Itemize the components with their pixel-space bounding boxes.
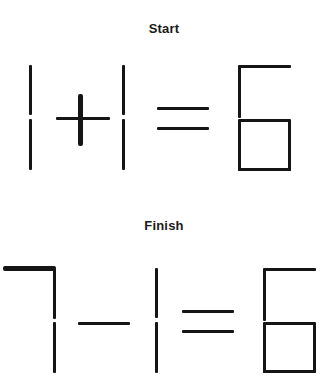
finish-equation [0, 0, 328, 381]
matchstick-vertical [122, 65, 125, 115]
start-section-label: Start [0, 22, 328, 36]
matchstick-vertical [78, 94, 83, 146]
matchstick-puzzle-canvas: Start Fi [0, 0, 328, 381]
matchstick-vertical [238, 66, 241, 118]
matchstick-horizontal [238, 65, 291, 68]
matchstick-vertical [155, 268, 158, 318]
matchstick-vertical [155, 322, 158, 373]
matchstick-vertical [122, 119, 125, 170]
matchstick-vertical [263, 269, 266, 321]
matchstick-horizontal [78, 322, 130, 325]
matchstick-horizontal [263, 370, 316, 373]
matchstick-vertical [288, 120, 291, 171]
matchstick-vertical [29, 65, 32, 115]
matchstick-horizontal [238, 168, 291, 171]
matchstick-horizontal [182, 330, 234, 333]
matchstick-vertical [263, 323, 266, 373]
matchstick-horizontal [263, 322, 316, 325]
matchstick-horizontal [182, 310, 234, 313]
matchstick-vertical [53, 322, 56, 373]
matchstick-horizontal [263, 268, 316, 271]
matchstick-horizontal [3, 266, 56, 271]
start-equation [0, 0, 328, 381]
matchstick-vertical [53, 269, 56, 319]
matchstick-vertical [238, 120, 241, 171]
matchstick-vertical [313, 323, 316, 373]
matchstick-vertical [29, 119, 32, 170]
matchstick-horizontal [157, 127, 209, 130]
matchstick-horizontal [157, 107, 209, 110]
finish-section-label: Finish [0, 219, 328, 233]
matchstick-horizontal [238, 119, 291, 122]
matchstick-horizontal [56, 117, 110, 120]
